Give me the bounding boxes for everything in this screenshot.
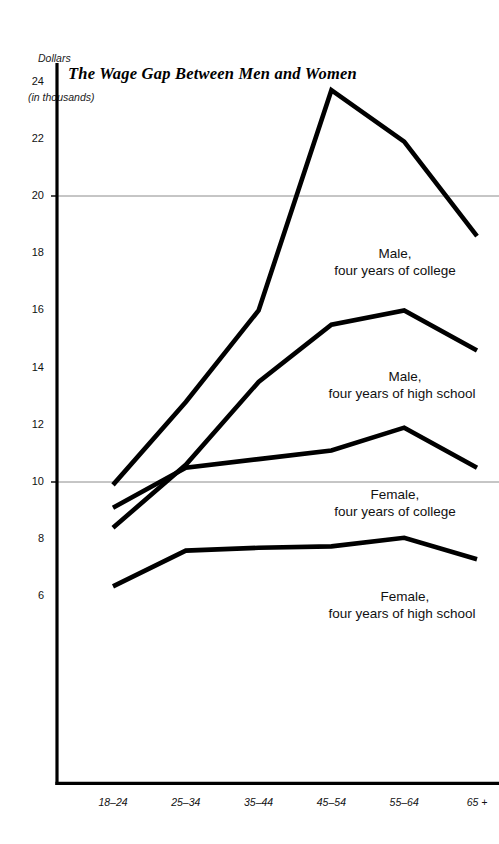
grid-lines [57,196,499,482]
y-tick-label-12: 12 [14,418,44,430]
y-tick-label-24: 24 [14,75,44,87]
series-line-0 [113,90,477,485]
series-label-female-college-line2: four years of college [300,503,490,520]
series-label-female-college-line1: Female, [300,486,490,503]
series-label-male-highschool: Male, four years of high school [300,368,499,402]
series-line-3 [113,538,477,587]
y-tick-label-16: 16 [14,303,44,315]
y-tick-label-8: 8 [14,532,44,544]
x-tick-label-5: 65 + [442,796,499,808]
series-label-male-college-line1: Male, [300,245,490,262]
y-tick-label-6: 6 [14,589,44,601]
series-label-female-highschool-line1: Female, [300,588,499,605]
x-tick-label-1: 25–34 [151,796,221,808]
x-tick-label-0: 18–24 [78,796,148,808]
series-label-female-highschool: Female, four years of high school [300,588,499,622]
x-tick-label-4: 55–64 [369,796,439,808]
series-label-female-highschool-line2: four years of high school [294,605,499,622]
y-tick-label-18: 18 [14,246,44,258]
series-label-male-highschool-line1: Male, [300,368,499,385]
y-tick-label-22: 22 [14,132,44,144]
series-label-male-college-line2: four years of college [300,262,490,279]
series-label-male-college: Male, four years of college [300,245,490,279]
y-tick-label-20: 20 [14,189,44,201]
series-label-male-highschool-line2: four years of high school [294,385,499,402]
y-tick-label-14: 14 [14,361,44,373]
series-label-female-college: Female, four years of college [300,486,490,520]
y-tick-label-10: 10 [14,475,44,487]
axis-lines [55,63,499,785]
plot-area [0,0,499,844]
wage-gap-line-chart: Dollars (in thousands) The Wage Gap Betw… [0,0,499,844]
x-tick-label-2: 35–44 [224,796,294,808]
x-tick-label-3: 45–54 [296,796,366,808]
